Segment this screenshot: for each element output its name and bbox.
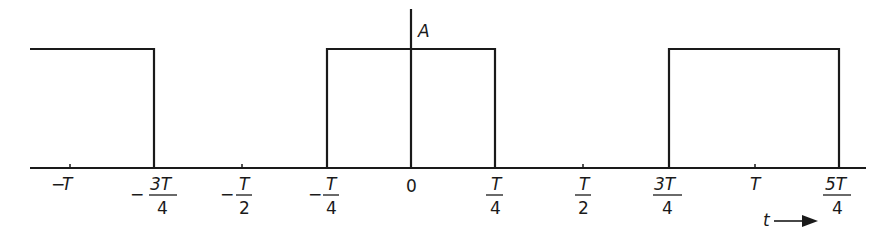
tick-label-T2-num: T — [579, 174, 591, 194]
tick-label-5T4-den: 4 — [832, 198, 843, 218]
tick-label-3T4-den: 4 — [662, 198, 673, 218]
tick-label-neg-T2-sign: − — [220, 184, 234, 204]
tick-label-3T4-num: 3T — [654, 174, 677, 194]
tick-label-neg-3T4-sign: − — [130, 184, 144, 204]
tick-label-T4-num: T — [491, 174, 503, 194]
tick-label-neg-3T4-num: 3T — [150, 174, 173, 194]
tick-label-T: T — [750, 174, 762, 194]
pulse-train-diagram: A − T − 3T 4 − T 2 − T 4 0 T 4 T 2 3T 4 … — [0, 0, 892, 235]
amplitude-label: A — [417, 21, 430, 41]
tick-label-neg-T: T — [62, 174, 74, 194]
tick-label-neg-T4-num: T — [326, 174, 338, 194]
tick-label-neg-T2-num: T — [239, 174, 251, 194]
tick-label-neg-T2-den: 2 — [239, 198, 250, 218]
pulse-left — [30, 49, 154, 168]
tick-label-T2-den: 2 — [578, 198, 589, 218]
tick-label-5T4-num: 5T — [825, 174, 848, 194]
arrowhead-icon — [802, 215, 818, 227]
tick-label-zero: 0 — [406, 176, 417, 196]
pulse-right — [669, 49, 839, 168]
tick-label-neg-3T4-den: 4 — [157, 198, 168, 218]
tick-label-neg-T4-sign: − — [308, 184, 322, 204]
tick-label-neg-T4-den: 4 — [326, 198, 337, 218]
time-axis-label: t — [763, 210, 771, 230]
tick-label-T4-den: 4 — [490, 198, 501, 218]
